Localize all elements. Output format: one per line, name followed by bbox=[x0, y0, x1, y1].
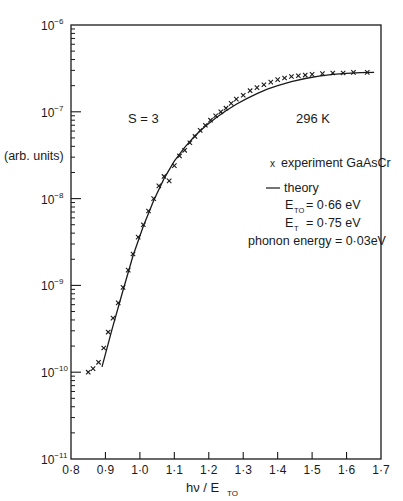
experiment-point-x-icon bbox=[310, 72, 314, 76]
experiment-point-x-icon bbox=[269, 80, 273, 84]
x-tick-label: 0·9 bbox=[97, 463, 115, 477]
experiment-point-x-icon bbox=[229, 101, 233, 105]
x-tick-label: 1·5 bbox=[303, 463, 321, 477]
experiment-point-x-icon bbox=[172, 163, 176, 167]
legend-theory-label: theory bbox=[284, 181, 319, 195]
legend-eto-subscript: TO bbox=[294, 206, 304, 215]
experiment-point-x-icon bbox=[262, 83, 266, 87]
experiment-point-x-icon bbox=[289, 74, 293, 78]
x-tick-label: 1·3 bbox=[235, 463, 253, 477]
experiment-point-x-icon bbox=[282, 76, 286, 80]
y-tick-label: 10−7 bbox=[41, 104, 64, 120]
annotation-temperature: 296 K bbox=[296, 111, 330, 126]
experiment-point-x-icon bbox=[255, 85, 259, 89]
experiment-point-x-icon bbox=[86, 370, 90, 374]
x-tick-label: 0·8 bbox=[62, 463, 80, 477]
experiment-point-x-icon bbox=[248, 89, 252, 93]
x-axis-title: hν / E TO bbox=[186, 480, 238, 498]
experiment-point-x-icon bbox=[167, 179, 171, 183]
experiment-point-x-icon bbox=[91, 366, 95, 370]
legend-et-symbol: E bbox=[285, 216, 293, 230]
x-axis-label-main: hν / E bbox=[186, 480, 220, 495]
x-axis-label-subscript: TO bbox=[227, 489, 238, 498]
x-tick-label: 1·4 bbox=[269, 463, 287, 477]
legend-et-value: = 0·75 eV bbox=[306, 216, 361, 230]
experiment-point-x-icon bbox=[102, 346, 106, 350]
experiment-point-x-icon bbox=[106, 330, 110, 334]
legend-experiment-label: experiment GaAsCr bbox=[281, 156, 391, 170]
x-tick-label: 1·1 bbox=[166, 463, 184, 477]
experiment-point-x-icon bbox=[241, 93, 245, 97]
y-axis-ticks: 10−1110−1010−910−810−710−6 bbox=[41, 17, 81, 467]
legend: x experiment GaAsCr theory E TO = 0·66 e… bbox=[248, 156, 391, 248]
experiment-point-x-icon bbox=[224, 106, 228, 110]
x-tick-label: 1·0 bbox=[131, 463, 149, 477]
y-tick-label: 10−10 bbox=[41, 364, 68, 380]
y-tick-label: 10−6 bbox=[41, 17, 64, 33]
experiment-point-x-icon bbox=[219, 110, 223, 114]
legend-phonon-energy: phonon energy = 0·03eV bbox=[248, 234, 387, 248]
experiment-point-x-icon bbox=[96, 360, 100, 364]
y-axis-label: (arb. units) bbox=[4, 149, 64, 163]
x-tick-label: 1·7 bbox=[372, 463, 390, 477]
x-axis-ticks: 0·80·91·01·11·21·31·41·51·61·7 bbox=[62, 452, 390, 477]
chart-plot: 10−1110−1010−910−810−710−6 0·80·91·01·11… bbox=[0, 0, 403, 501]
legend-eto-symbol: E bbox=[285, 198, 293, 212]
experiment-point-x-icon bbox=[296, 74, 300, 78]
y-tick-label: 10−9 bbox=[41, 277, 64, 293]
legend-eto-value: = 0·66 eV bbox=[306, 198, 361, 212]
x-tick-label: 1·2 bbox=[200, 463, 218, 477]
experiment-point-x-icon bbox=[275, 77, 279, 81]
y-tick-label: 10−8 bbox=[41, 191, 64, 207]
experiment-point-x-icon bbox=[234, 97, 238, 101]
x-tick-label: 1·6 bbox=[338, 463, 356, 477]
annotation-s-value: S = 3 bbox=[128, 111, 159, 126]
legend-et-subscript: T bbox=[294, 224, 299, 233]
legend-experiment-marker-icon: x bbox=[270, 158, 275, 169]
experiment-point-x-icon bbox=[303, 73, 307, 77]
